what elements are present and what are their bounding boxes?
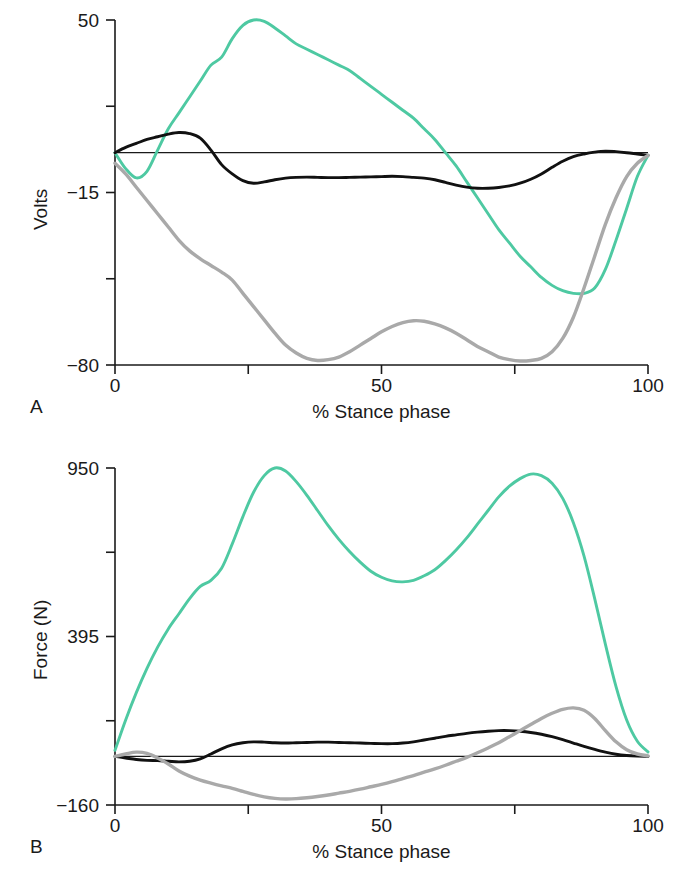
- y-tick-label: −160: [56, 795, 99, 816]
- series-black-trace: [115, 731, 648, 762]
- x-axis-title: % Stance phase: [312, 401, 450, 422]
- y-tick-label: 950: [67, 458, 99, 479]
- x-tick-label: 0: [110, 815, 121, 836]
- series-gray-trace: [115, 155, 648, 361]
- y-tick-label: −80: [67, 355, 99, 376]
- panel-b: Force (N) B 950395−160050100% Stance pha…: [0, 440, 678, 881]
- y-tick-label: 50: [78, 10, 99, 31]
- panel-a: Volts A 50−15−80050100% Stance phase: [0, 0, 678, 440]
- panel-a-plot: 50−15−80050100% Stance phase: [0, 0, 678, 440]
- figure-container: Volts A 50−15−80050100% Stance phase For…: [0, 0, 678, 881]
- x-tick-label: 50: [371, 375, 392, 396]
- x-tick-label: 50: [371, 815, 392, 836]
- x-tick-label: 100: [632, 815, 664, 836]
- series-black-trace: [115, 133, 648, 189]
- y-tick-label: 395: [67, 626, 99, 647]
- x-axis-title: % Stance phase: [312, 841, 450, 862]
- y-tick-label: −15: [67, 182, 99, 203]
- panel-b-plot: 950395−160050100% Stance phase: [0, 440, 678, 881]
- series-green-trace: [115, 20, 648, 294]
- series-gray-trace: [115, 708, 648, 799]
- x-tick-label: 100: [632, 375, 664, 396]
- x-tick-label: 0: [110, 375, 121, 396]
